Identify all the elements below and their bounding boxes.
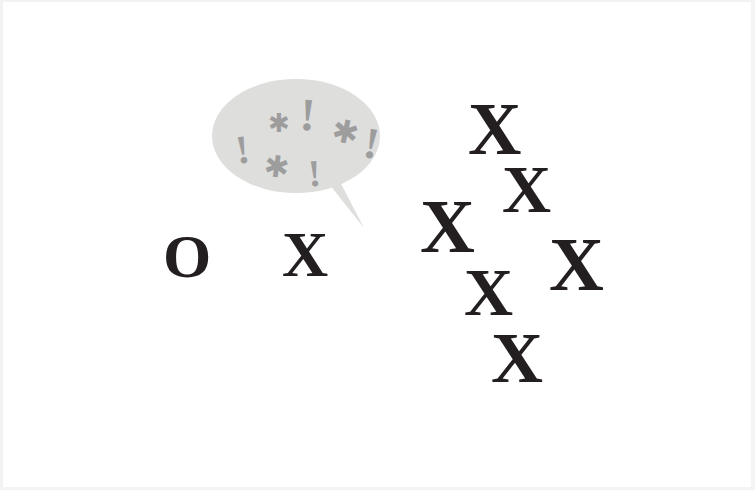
letter-x-3: X bbox=[420, 188, 475, 264]
grawlix-asterisk-3: ✱ bbox=[262, 150, 291, 183]
letter-o: O bbox=[163, 225, 211, 287]
page-edge-top bbox=[0, 0, 755, 2]
illustration-canvas: OX !✱!✱!✱! XXXXXX bbox=[0, 0, 755, 490]
letter-x-6: X bbox=[491, 322, 543, 394]
page-edge-right bbox=[751, 0, 755, 490]
letter-x-4: X bbox=[549, 226, 604, 302]
letter-x-2: X bbox=[502, 155, 551, 223]
grawlix-bang-4: ! bbox=[307, 154, 322, 193]
grawlix-asterisk-1: ✱ bbox=[268, 110, 290, 136]
speech-bubble: !✱!✱!✱! bbox=[212, 78, 390, 230]
page-edge-left bbox=[0, 0, 3, 490]
grawlix-bang-2: ! bbox=[298, 92, 316, 139]
letter-x-5: X bbox=[464, 258, 513, 326]
letter-x-left: X bbox=[282, 223, 328, 287]
